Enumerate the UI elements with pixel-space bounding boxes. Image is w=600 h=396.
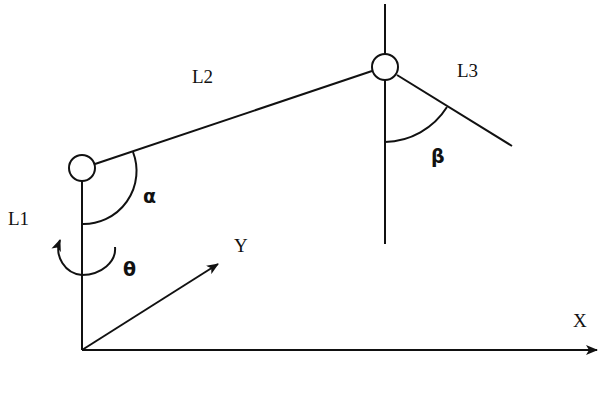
joint-elbow-circle xyxy=(372,54,398,80)
link-l2 xyxy=(95,71,372,164)
alpha-angle-arc xyxy=(82,152,137,224)
y-axis xyxy=(82,264,218,350)
label-theta: θ xyxy=(123,258,136,280)
joint-base-circle xyxy=(69,155,95,181)
label-l1: L1 xyxy=(8,208,29,229)
label-y-axis: Y xyxy=(234,235,248,256)
robot-arm-diagram: L1 L2 L3 α β θ Y X xyxy=(0,0,600,396)
label-alpha: α xyxy=(143,185,156,207)
label-l3: L3 xyxy=(457,60,478,81)
beta-angle-arc xyxy=(385,107,447,142)
theta-rotation-arrow-icon xyxy=(58,240,115,275)
label-beta: β xyxy=(431,145,445,167)
label-x-axis: X xyxy=(573,310,587,331)
label-l2: L2 xyxy=(192,66,213,87)
